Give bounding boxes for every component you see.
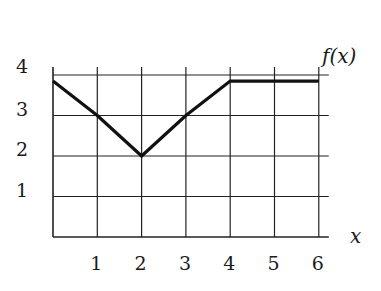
x-tick-label: 4	[223, 252, 235, 274]
function-label: f(x)	[320, 44, 356, 68]
y-tick-label: 2	[16, 138, 28, 160]
x-tick-labels: 123456	[90, 252, 324, 274]
y-tick-label: 3	[16, 98, 28, 120]
x-tick-label: 2	[135, 252, 147, 274]
y-tick-label: 4	[16, 55, 28, 77]
grid	[53, 67, 329, 237]
function-graph: 1234 123456 f(x) x	[0, 0, 381, 291]
x-axis-label: x	[350, 224, 361, 248]
x-tick-label: 1	[90, 252, 102, 274]
y-tick-label: 1	[16, 179, 28, 201]
x-tick-label: 6	[312, 252, 324, 274]
y-tick-labels: 1234	[16, 55, 28, 201]
x-tick-label: 3	[179, 252, 191, 274]
x-tick-label: 5	[268, 252, 280, 274]
